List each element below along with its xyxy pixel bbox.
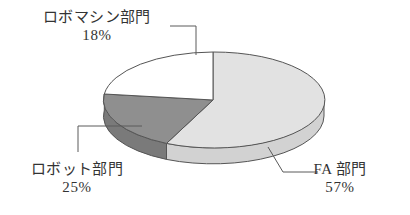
slice-label-robomachine-percent: 18% [22, 26, 172, 44]
slice-robomachine [104, 52, 213, 100]
slice-label-fa-percent: 57% [290, 178, 390, 196]
pie-top-face [103, 52, 325, 148]
slice-label-robot: ロボット部門 25% [2, 160, 152, 197]
slice-label-robomachine: ロボマシン部門 18% [22, 8, 172, 45]
slice-label-robot-name: ロボット部門 [31, 161, 123, 177]
slice-label-fa: FA 部門 57% [290, 160, 390, 197]
slice-label-fa-name: FA 部門 [314, 161, 367, 177]
slice-label-robomachine-name: ロボマシン部門 [43, 9, 151, 25]
slice-label-robot-percent: 25% [2, 178, 152, 196]
pie-chart-figure: ロボマシン部門 18% ロボット部門 25% FA 部門 57% [0, 0, 410, 215]
leader-line-robomachine [170, 26, 196, 55]
